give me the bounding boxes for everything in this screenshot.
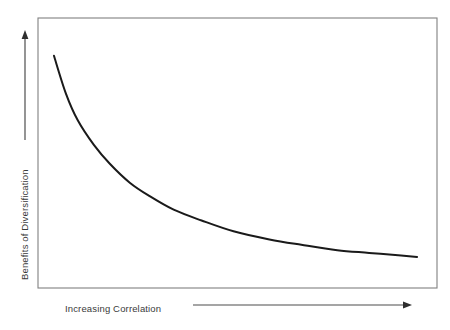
y-axis-label: Benefits of Diversification [19, 169, 30, 280]
chart-page: Benefits of Diversification Increasing C… [0, 0, 450, 330]
x-axis-label: Increasing Correlation [65, 303, 161, 314]
plot-frame [38, 18, 437, 288]
diversification-correlation-chart: Benefits of Diversification Increasing C… [0, 0, 450, 330]
